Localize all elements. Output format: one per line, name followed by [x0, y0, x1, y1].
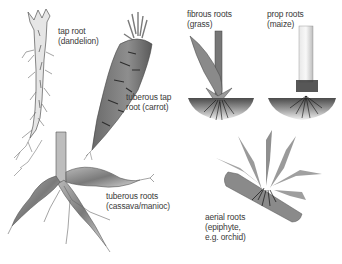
label-aerial-roots: aerial roots (epiphyte, e.g. orchid): [205, 212, 246, 242]
label-aerial-roots-line1: aerial roots: [205, 212, 246, 222]
label-tuberous-roots-line2: (cassava/manioc): [106, 201, 170, 211]
dandelion-tap-root-illustration: [14, 9, 54, 160]
label-tap-root-line1: tap root: [58, 26, 99, 36]
label-aerial-roots-line2: (epiphyte,: [205, 222, 246, 232]
label-aerial-roots-line3: e.g. orchid): [205, 232, 246, 242]
label-fibrous-roots-line1: fibrous roots: [187, 9, 232, 19]
illustrations: [0, 0, 342, 264]
root-types-diagram: tap root (dandelion) tuberous tap root (…: [0, 0, 342, 264]
label-tap-root: tap root (dandelion): [58, 26, 99, 46]
label-tuberous-tap-root: tuberous tap root (carrot): [126, 92, 171, 112]
grass-illustration: [188, 31, 254, 120]
label-tuberous-tap-root-line2: root (carrot): [126, 102, 171, 112]
label-tuberous-tap-root-line1: tuberous tap: [126, 92, 171, 102]
orchid-illustration: [216, 130, 322, 222]
label-prop-roots-line2: (maize): [267, 19, 304, 29]
label-fibrous-roots: fibrous roots (grass): [187, 9, 232, 29]
label-tuberous-roots: tuberous roots (cassava/manioc): [106, 191, 170, 211]
label-prop-roots: prop roots (maize): [267, 9, 304, 29]
label-tap-root-line2: (dandelion): [58, 36, 99, 46]
label-tuberous-roots-line1: tuberous roots: [106, 191, 170, 201]
label-fibrous-roots-line2: (grass): [187, 19, 232, 29]
label-prop-roots-line1: prop roots: [267, 9, 304, 19]
maize-illustration: [268, 26, 336, 120]
